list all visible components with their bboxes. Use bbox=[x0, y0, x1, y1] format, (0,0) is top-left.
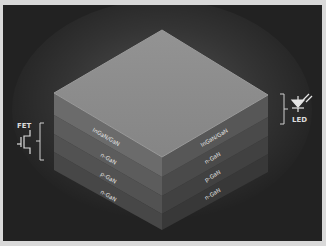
led-label: LED bbox=[292, 116, 307, 124]
diagram-frame: InGaN/GaN n-GaN p-GaN n-GaN InGaN/GaN n-… bbox=[3, 5, 322, 241]
layer-stack-diagram: InGaN/GaN n-GaN p-GaN n-GaN InGaN/GaN n-… bbox=[3, 5, 322, 241]
fet-label: FET bbox=[17, 122, 32, 130]
